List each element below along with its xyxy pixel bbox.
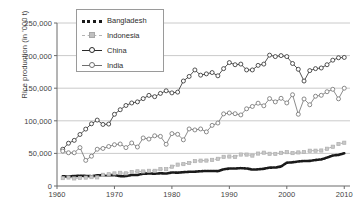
data-point (187, 127, 191, 131)
data-point (302, 79, 306, 83)
data-point (153, 169, 156, 172)
data-point (101, 146, 105, 150)
data-point (331, 87, 335, 91)
data-point (325, 90, 329, 94)
data-point (245, 107, 249, 111)
data-point (107, 173, 110, 176)
data-point (296, 67, 300, 71)
data-point (95, 147, 99, 151)
data-point (158, 134, 162, 138)
data-point (279, 96, 283, 100)
data-point (181, 138, 185, 142)
data-point (164, 142, 168, 146)
data-point (285, 151, 288, 154)
data-point (342, 86, 346, 90)
legend-label-india: India (103, 61, 123, 70)
legend-label-indonesia: Indonesia (103, 31, 140, 40)
legend-label-bangladesh: Bangladesh (103, 16, 147, 25)
legend-swatch-india (81, 60, 103, 71)
data-point (314, 67, 318, 71)
data-point (314, 94, 318, 98)
data-point (130, 170, 133, 173)
data-point (135, 145, 139, 149)
data-point (141, 136, 145, 140)
data-point (319, 93, 323, 97)
data-point (66, 141, 70, 145)
legend-item-china: China (81, 43, 159, 58)
data-point (279, 151, 282, 154)
data-point (153, 95, 157, 99)
data-point (176, 90, 180, 94)
data-point (268, 53, 272, 57)
legend-item-india: India (81, 58, 159, 73)
data-point (61, 149, 65, 153)
data-point (279, 54, 283, 58)
data-point (337, 142, 340, 145)
data-point (136, 170, 139, 173)
data-point (84, 176, 87, 179)
legend-swatch-bangladesh (81, 15, 103, 26)
data-point (274, 152, 277, 155)
data-point (164, 89, 168, 93)
data-point (308, 149, 311, 152)
legend-item-bangladesh: Bangladesh (81, 13, 159, 28)
data-point (78, 132, 82, 136)
data-point (199, 159, 202, 162)
data-point (227, 111, 231, 115)
data-point (331, 145, 334, 148)
legend-item-indonesia: Indonesia (81, 28, 159, 43)
data-point (142, 170, 145, 173)
data-point (84, 127, 88, 131)
data-point (159, 168, 162, 171)
data-point (67, 176, 70, 179)
data-point (256, 101, 260, 105)
data-point (181, 79, 185, 83)
data-point (285, 55, 289, 59)
data-point (113, 172, 116, 175)
data-point (245, 153, 248, 156)
data-point (107, 122, 111, 126)
data-point (170, 91, 174, 95)
data-point (250, 104, 254, 108)
data-point (78, 176, 81, 179)
data-point (319, 66, 323, 70)
data-point (285, 101, 289, 105)
data-point (89, 122, 93, 126)
data-point (135, 100, 139, 104)
data-point (262, 104, 266, 108)
data-point (73, 177, 76, 180)
data-point (193, 160, 196, 163)
data-point (199, 127, 203, 131)
data-point (204, 130, 208, 134)
data-point (308, 69, 312, 73)
data-point (170, 165, 173, 168)
data-point (302, 97, 306, 101)
data-point (308, 103, 312, 107)
series-line-bangladesh (63, 153, 345, 176)
data-point (101, 173, 104, 176)
data-point (72, 138, 76, 142)
data-point (204, 72, 208, 76)
data-point (233, 63, 237, 67)
data-point (118, 142, 122, 146)
data-point (158, 91, 162, 95)
data-point (72, 151, 76, 155)
data-point (239, 153, 242, 156)
data-point (210, 123, 214, 127)
data-point (302, 150, 305, 153)
data-point (262, 62, 266, 66)
data-point (222, 155, 225, 158)
legend-label-china: China (103, 46, 127, 55)
data-point (118, 108, 122, 112)
data-point (66, 151, 70, 155)
legend: Bangladesh Indonesia China India (76, 9, 164, 72)
data-point (205, 159, 208, 162)
data-point (119, 171, 122, 174)
data-point (165, 168, 168, 171)
data-point (130, 141, 134, 145)
data-point (233, 112, 237, 116)
data-point (187, 74, 191, 78)
data-point (222, 67, 226, 71)
data-point (107, 144, 111, 148)
data-point (273, 55, 277, 59)
